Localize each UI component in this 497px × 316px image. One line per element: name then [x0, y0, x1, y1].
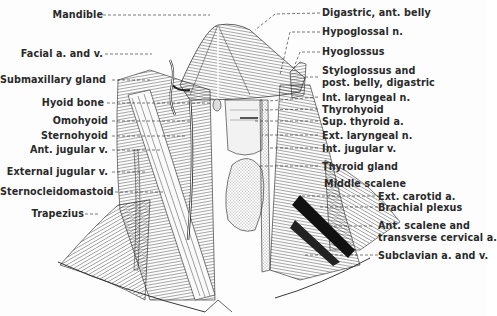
label-styloglossus-line1: Styloglossus and	[322, 65, 415, 76]
label-mandible: Mandible	[0, 9, 103, 20]
label-anterior-scalene-line1: Ant. scalene and	[378, 220, 470, 231]
label-external-laryngeal-nerve: Ext. laryngeal n.	[322, 130, 413, 141]
label-thyroid-gland: Thyroid gland	[322, 161, 398, 172]
label-facial-artery-vein: Facial a. and v.	[0, 48, 103, 59]
label-anterior-jugular-vein: Ant. jugular v.	[0, 144, 108, 155]
label-sternocleidomastoid: Sternocleidomastoid	[0, 186, 108, 197]
label-hypoglossal-nerve: Hypoglossal n.	[322, 26, 403, 37]
label-trapezius: Trapezius	[0, 208, 84, 219]
label-brachial-plexus: Brachial plexus	[378, 202, 462, 213]
label-hyoid-bone: Hyoid bone	[0, 97, 104, 108]
label-digastric-anterior-belly: Digastric, ant. belly	[322, 7, 431, 18]
thyroid-cartilage	[225, 100, 262, 155]
label-hyoglossus: Hyoglossus	[322, 46, 385, 57]
label-external-carotid-artery: Ext. carotid a.	[378, 191, 456, 202]
label-internal-jugular-vein: Int. jugular v.	[322, 143, 396, 154]
label-subclavian-artery-vein: Subclavian a. and v.	[378, 250, 488, 261]
thyroid-gland	[226, 159, 264, 232]
sternal-notch	[205, 300, 232, 312]
hyoid-bone	[213, 99, 221, 111]
label-submaxillary-gland: Submaxillary gland	[0, 74, 104, 85]
label-sternohyoid: Sternohyoid	[0, 130, 108, 141]
mandible-muscles	[180, 24, 305, 100]
label-internal-laryngeal-nerve: Int. laryngeal n.	[322, 92, 410, 103]
internal-jugular-vein	[260, 100, 270, 272]
label-middle-scalene: Middle scalene	[324, 178, 406, 189]
label-external-jugular-vein: External jugular v.	[0, 166, 108, 177]
label-thyrohyoid: Thyrohyoid	[322, 104, 384, 115]
label-anterior-scalene-line2: transverse cervical a.	[378, 232, 497, 243]
label-styloglossus-line2: post. belly, digastric	[322, 77, 435, 88]
label-superior-thyroid-artery: Sup. thyroid a.	[322, 116, 404, 127]
label-omohyoid: Omohyoid	[0, 115, 108, 126]
